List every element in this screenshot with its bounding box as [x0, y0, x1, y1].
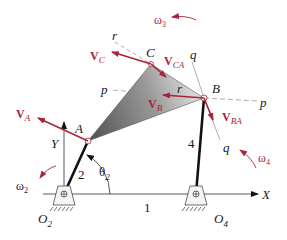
label-vba: VBA — [222, 111, 242, 126]
label-c: C — [146, 46, 155, 59]
label-vca: VCA — [164, 55, 184, 70]
omega2-arc — [40, 166, 56, 178]
label-y-axis: Y — [51, 137, 58, 150]
label-x-axis: X — [262, 188, 270, 201]
label-r-top: r — [112, 29, 117, 42]
label-link-2: 2 — [78, 168, 85, 181]
coupler-link-3 — [88, 64, 204, 141]
link-4 — [196, 98, 204, 194]
label-p-right: p — [260, 96, 267, 109]
label-omega2: ω2 — [16, 180, 28, 195]
omega4-arc — [240, 150, 256, 168]
label-b: B — [212, 82, 220, 95]
label-theta2: θ2 — [99, 165, 110, 182]
omega3-arc — [172, 16, 196, 20]
label-link-1: 1 — [144, 201, 151, 214]
ground-pivot-o4 — [182, 186, 207, 211]
label-va: VA — [16, 108, 30, 123]
label-vc: VC — [90, 50, 105, 65]
label-q-bottom: q — [223, 141, 230, 154]
label-a: A — [75, 122, 83, 135]
vector-vba — [204, 98, 213, 120]
label-link-4: 4 — [188, 137, 195, 150]
label-vb: VB — [148, 98, 162, 113]
label-omega3: ω3 — [154, 14, 166, 29]
linkage-diagram: C B A O2 O4 X Y 1 2 4 θ2 p p q q r r VC … — [0, 0, 287, 240]
ground-pivot-o2 — [50, 186, 75, 211]
label-r-bottom: r — [177, 82, 182, 95]
label-omega4: ω4 — [258, 152, 270, 167]
label-o4: O4 — [214, 212, 228, 229]
label-q-top: q — [190, 48, 197, 61]
label-p-left: p — [101, 83, 108, 96]
label-o2: O2 — [38, 212, 52, 229]
